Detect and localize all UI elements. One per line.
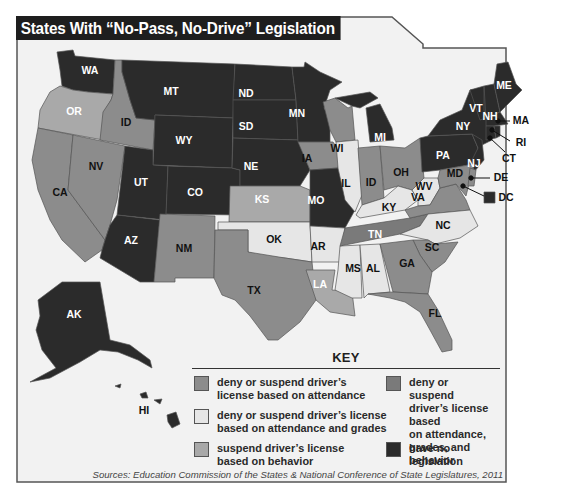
legend-item-behavior: suspend driver’s license based on behavi… <box>194 441 352 467</box>
label-az: AZ <box>124 234 139 246</box>
label-in: ID <box>366 176 377 188</box>
label-mo: MO <box>308 194 325 206</box>
legend: KEY deny or suspend driver’s license bas… <box>192 350 500 375</box>
legend-swatch <box>386 442 401 457</box>
legend-label: deny or suspend driver’s license based o… <box>217 408 387 434</box>
label-md: MD <box>447 167 464 179</box>
label-ri: RI <box>516 136 527 148</box>
label-wv: WV <box>416 180 433 192</box>
state-dc-marker <box>484 192 495 203</box>
label-ne: NE <box>244 160 259 172</box>
legend-swatch <box>194 376 209 391</box>
label-mt: MT <box>163 85 179 97</box>
label-or: OR <box>66 105 82 117</box>
label-al: AL <box>366 262 381 274</box>
label-la: LA <box>313 278 327 290</box>
label-ks: KS <box>255 193 270 205</box>
label-hi: HI <box>139 404 150 416</box>
label-nj: NJ <box>467 157 481 169</box>
legend-label: have no legislation <box>409 441 495 467</box>
label-wy: WY <box>176 134 193 146</box>
legend-label: deny or suspend driver’s license based o… <box>217 375 365 401</box>
legend-item-attendance: deny or suspend driver’s license based o… <box>194 375 375 401</box>
state-wy <box>153 115 233 168</box>
label-tx: TX <box>247 284 260 296</box>
label-tn: TN <box>368 228 382 240</box>
label-ca: CA <box>52 186 68 198</box>
sources-credit: Sources: Education Commission of the Sta… <box>16 469 503 480</box>
label-ak: AK <box>66 308 82 320</box>
label-nv: NV <box>89 160 104 172</box>
label-ny: NY <box>456 120 471 132</box>
label-ga: GA <box>399 257 415 269</box>
label-dc: DC <box>498 191 514 203</box>
legend-label: suspend driver’s license based on behavi… <box>217 441 344 467</box>
state-fl <box>368 292 452 352</box>
label-mi: MI <box>374 131 386 143</box>
label-ok: OK <box>266 233 282 245</box>
legend-swatch <box>194 409 209 424</box>
label-ut: UT <box>134 176 149 188</box>
label-ct: CT <box>502 152 517 164</box>
label-oh: OH <box>393 166 409 178</box>
state-ak <box>30 282 152 382</box>
label-wi: WI <box>331 142 344 154</box>
label-ky: KY <box>382 201 397 213</box>
label-sd: SD <box>239 120 254 132</box>
label-nd: ND <box>238 87 254 99</box>
legend-item-attendance-grades: deny or suspend driver’s license based o… <box>194 408 397 434</box>
label-me: ME <box>496 79 512 91</box>
label-vt: VT <box>469 102 483 114</box>
label-mn: MN <box>289 107 305 119</box>
label-pa: PA <box>436 149 450 161</box>
legend-title: KEY <box>192 350 500 369</box>
label-nm: NM <box>176 242 193 254</box>
legend-item-none: have no legislation <box>386 441 500 467</box>
label-nh: NH <box>482 110 497 122</box>
state-co <box>166 166 240 215</box>
state-ks <box>229 186 310 222</box>
label-nc: NC <box>435 219 451 231</box>
label-de: DE <box>494 171 509 183</box>
label-il: IL <box>341 177 351 189</box>
label-ms: MS <box>345 262 361 274</box>
label-sc: SC <box>425 241 440 253</box>
legend-swatch <box>194 442 209 457</box>
label-co: CO <box>187 186 203 198</box>
legend-swatch <box>386 376 401 391</box>
label-ma: MA <box>513 114 530 126</box>
label-fl: FL <box>429 307 442 319</box>
label-id: ID <box>121 116 132 128</box>
label-wa: WA <box>82 64 99 76</box>
label-va: VA <box>411 191 425 203</box>
label-ia: IA <box>302 152 313 164</box>
label-ar: AR <box>310 240 326 252</box>
